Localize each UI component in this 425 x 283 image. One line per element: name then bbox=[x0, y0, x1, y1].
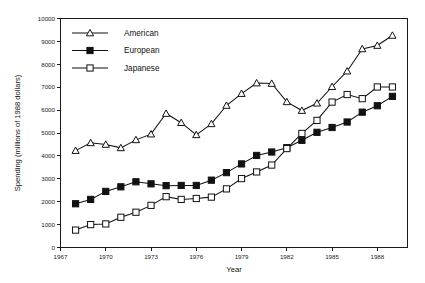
x-tick-label: 1985 bbox=[325, 253, 339, 260]
data-point bbox=[223, 186, 229, 192]
data-point bbox=[269, 149, 275, 155]
data-point bbox=[314, 129, 320, 135]
y-tick-label: 6000 bbox=[41, 106, 55, 113]
y-tick-label: 3000 bbox=[41, 175, 55, 182]
data-point bbox=[254, 169, 260, 175]
x-tick-label: 1988 bbox=[370, 253, 384, 260]
chart-legend: AmericanEuropeanJapanese bbox=[72, 29, 160, 73]
y-tick-label: 0 bbox=[52, 244, 56, 251]
x-tick-label: 1976 bbox=[189, 253, 203, 260]
data-point bbox=[103, 221, 109, 227]
y-tick-label: 9000 bbox=[41, 38, 55, 45]
y-axis-title: Spending (millions of 1988 dollars) bbox=[13, 74, 22, 191]
y-tick-label: 10000 bbox=[38, 15, 56, 22]
x-tick-label: 1970 bbox=[99, 253, 113, 260]
legend-label: American bbox=[124, 29, 159, 38]
data-point bbox=[284, 145, 290, 151]
data-point bbox=[223, 170, 229, 176]
x-axis-ticks: 19671970197319761979198219851988 bbox=[54, 248, 385, 261]
data-point bbox=[298, 107, 305, 113]
y-tick-label: 2000 bbox=[41, 198, 55, 205]
data-point bbox=[87, 139, 94, 145]
data-point bbox=[133, 209, 139, 215]
data-point bbox=[118, 214, 124, 220]
data-point bbox=[163, 183, 169, 189]
data-point bbox=[299, 137, 305, 143]
data-point bbox=[133, 179, 139, 185]
legend-marker bbox=[87, 47, 93, 53]
series-line-japanese bbox=[76, 87, 393, 230]
data-point bbox=[88, 222, 94, 228]
plot-area-border bbox=[61, 19, 408, 248]
data-point bbox=[254, 152, 260, 158]
x-tick-label: 1967 bbox=[54, 253, 68, 260]
legend-marker bbox=[87, 65, 93, 71]
series-japanese bbox=[72, 84, 395, 233]
legend-label: Japanese bbox=[124, 64, 160, 73]
data-point bbox=[329, 124, 335, 130]
legend-item-japanese: Japanese bbox=[72, 64, 160, 73]
y-tick-label: 7000 bbox=[41, 83, 55, 90]
data-point bbox=[72, 147, 79, 153]
data-point bbox=[238, 161, 244, 167]
data-point bbox=[269, 162, 275, 168]
data-point bbox=[72, 227, 78, 233]
data-point bbox=[374, 42, 381, 48]
data-point bbox=[314, 117, 320, 123]
x-axis-title: Year bbox=[226, 265, 242, 274]
data-point bbox=[359, 109, 365, 115]
data-point bbox=[118, 184, 124, 190]
data-point bbox=[374, 103, 380, 109]
y-tick-label: 8000 bbox=[41, 61, 55, 68]
data-point bbox=[374, 84, 380, 90]
data-point bbox=[389, 93, 395, 99]
data-point bbox=[389, 84, 395, 90]
data-point bbox=[178, 182, 184, 188]
data-point bbox=[103, 188, 109, 194]
legend-item-european: European bbox=[72, 46, 160, 55]
data-point bbox=[344, 68, 351, 74]
data-point bbox=[178, 119, 185, 125]
data-point bbox=[344, 91, 350, 97]
y-tick-label: 5000 bbox=[41, 129, 55, 136]
line-chart: 0100020003000400050006000700080009000100… bbox=[0, 0, 425, 283]
chart-figure: 0100020003000400050006000700080009000100… bbox=[0, 0, 425, 283]
data-series-group bbox=[72, 32, 396, 233]
data-point bbox=[178, 196, 184, 202]
y-tick-label: 1000 bbox=[41, 221, 55, 228]
data-point bbox=[389, 32, 396, 38]
y-tick-label: 4000 bbox=[41, 152, 55, 159]
data-point bbox=[193, 182, 199, 188]
x-tick-label: 1973 bbox=[144, 253, 158, 260]
data-point bbox=[344, 119, 350, 125]
data-point bbox=[238, 90, 245, 96]
legend-item-american: American bbox=[72, 29, 159, 38]
data-point bbox=[238, 175, 244, 181]
x-tick-label: 1979 bbox=[235, 253, 249, 260]
plot-frame bbox=[61, 19, 408, 248]
data-point bbox=[193, 195, 199, 201]
data-point bbox=[88, 196, 94, 202]
data-point bbox=[148, 202, 154, 208]
x-tick-label: 1982 bbox=[280, 253, 294, 260]
data-point bbox=[208, 177, 214, 183]
data-point bbox=[148, 181, 154, 187]
data-point bbox=[329, 99, 335, 105]
data-point bbox=[163, 194, 169, 200]
data-point bbox=[72, 201, 78, 207]
y-axis-ticks: 0100020003000400050006000700080009000100… bbox=[38, 15, 61, 251]
data-point bbox=[359, 96, 365, 102]
data-point bbox=[163, 110, 170, 116]
data-point bbox=[299, 130, 305, 136]
legend-label: European bbox=[124, 46, 160, 55]
data-point bbox=[208, 194, 214, 200]
